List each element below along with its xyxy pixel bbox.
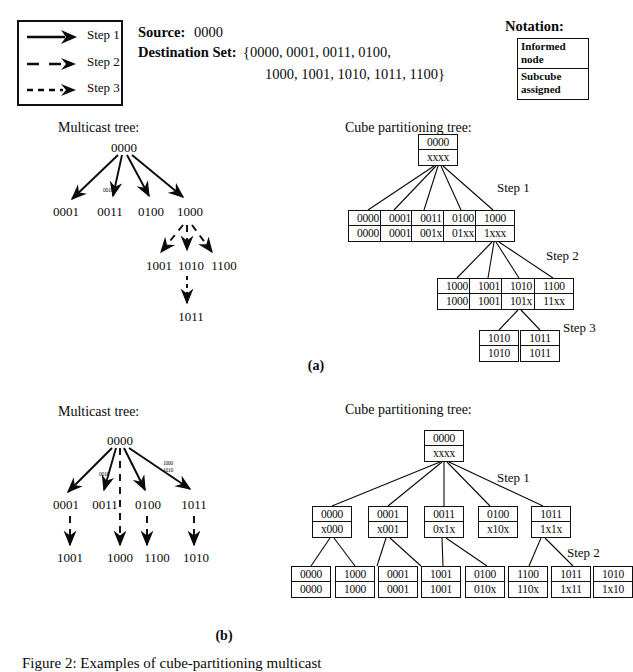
subcube-value: 1x10: [594, 582, 632, 597]
informed-node-value: 1011: [552, 567, 590, 582]
figure-caption: Figure 2: Examples of cube-partitioning …: [22, 655, 322, 672]
panel-b-cube-l1-0: 0000 x000: [312, 506, 352, 538]
informed-node-value: 0001: [379, 567, 417, 582]
panel-b-cube-l2-7: 1010 1x10: [593, 566, 633, 598]
panel-b-cube-l1-2: 0011 0x1x: [424, 506, 464, 538]
informed-node-value: 1010: [594, 567, 632, 582]
panel-b-cube-root-subcube: xxxx: [425, 446, 463, 461]
subcube-value: x001: [369, 522, 407, 537]
subcube-value: 0001: [379, 582, 417, 597]
panel-b-step-2-label: Step 2: [567, 545, 600, 561]
subcube-value: x10x: [479, 522, 517, 537]
informed-node-value: 0011: [425, 507, 463, 522]
informed-node-value: 0100: [466, 567, 504, 582]
panel-b-cube-root-informed: 0000: [425, 431, 463, 446]
subcube-value: x000: [313, 522, 351, 537]
panel-b-cube-l2-3: 1001 1001: [421, 566, 461, 598]
informed-node-value: 1000: [336, 567, 374, 582]
informed-node-value: 0100: [479, 507, 517, 522]
subcube-value: 110x: [509, 582, 547, 597]
informed-node-value: 1001: [422, 567, 460, 582]
informed-node-value: 0000: [292, 567, 330, 582]
subcube-value: 1001: [422, 582, 460, 597]
panel-b-cube-l2-0: 0000 0000: [291, 566, 331, 598]
panel-b-cube-l2-6: 1011 1x11: [551, 566, 591, 598]
subcube-value: 1x1x: [532, 522, 570, 537]
panel-b-cube-l2-1: 1000 1000: [335, 566, 375, 598]
panel-b-cube-l2-2: 0001 0001: [378, 566, 418, 598]
informed-node-value: 1011: [532, 507, 570, 522]
informed-node-value: 0001: [369, 507, 407, 522]
panel-b-cube-l1-4: 1011 1x1x: [531, 506, 571, 538]
subcube-value: 1x11: [552, 582, 590, 597]
panel-b-cube-root: 0000 xxxx: [424, 430, 464, 462]
panel-b-step-1-label: Step 1: [497, 470, 530, 486]
panel-b-label: (b): [215, 628, 232, 644]
informed-node-value: 0000: [313, 507, 351, 522]
subcube-value: 1000: [336, 582, 374, 597]
subcube-value: 0000: [292, 582, 330, 597]
panel-b-cube-l1-1: 0001 x001: [368, 506, 408, 538]
informed-node-value: 1100: [509, 567, 547, 582]
panel-b-cube-l1-3: 0100 x10x: [478, 506, 518, 538]
subcube-value: 0x1x: [425, 522, 463, 537]
subcube-value: 010x: [466, 582, 504, 597]
panel-b-cube-l2-4: 0100 010x: [465, 566, 505, 598]
panel-b-cube-l2-5: 1100 110x: [508, 566, 548, 598]
